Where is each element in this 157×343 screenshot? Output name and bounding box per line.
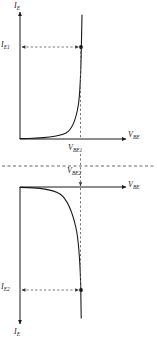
upper-y-axis-label: IE xyxy=(14,2,20,10)
upper-curve xyxy=(20,15,82,139)
upper-voltage-marker-subscript: BE1 xyxy=(73,147,82,153)
figure-root: IE IE1 VBE VBE1 VBE2 VBE IE2 IE xyxy=(0,0,157,343)
lower-current-marker-label: IE2 xyxy=(1,283,10,291)
lower-voltage-marker-subscript: BE2 xyxy=(72,170,81,176)
lower-curve xyxy=(20,187,81,318)
upper-x-axis-label: VBE xyxy=(128,131,139,139)
upper-x-axis-label-subscript: BE xyxy=(133,134,140,140)
lower-operating-point xyxy=(79,288,83,292)
lower-x-axis-label: VBE xyxy=(128,181,139,189)
lower-x-axis-label-subscript: BE xyxy=(133,184,140,190)
upper-voltage-marker-label: VBE1 xyxy=(68,144,82,152)
lower-y-axis-label: IE xyxy=(14,328,20,336)
upper-current-marker-label: IE1 xyxy=(1,41,10,49)
upper-y-axis-label-subscript: E xyxy=(17,5,20,11)
upper-operating-point xyxy=(79,45,83,49)
lower-characteristic-plot xyxy=(20,187,126,324)
lower-current-marker-subscript: E2 xyxy=(4,286,10,292)
lower-y-axis-label-subscript: E xyxy=(17,331,20,337)
upper-characteristic-plot xyxy=(20,12,126,139)
lower-voltage-marker-label: VBE2 xyxy=(67,167,81,175)
upper-current-marker-subscript: E1 xyxy=(4,44,10,50)
